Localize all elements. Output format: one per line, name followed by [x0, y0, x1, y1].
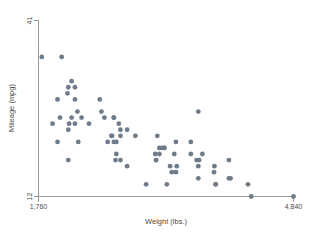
data-point — [212, 170, 217, 175]
data-point — [69, 79, 74, 84]
x-axis-title: Weight (lbs.) — [145, 217, 187, 226]
y-axis-title: Mileage (mpg) — [7, 84, 16, 132]
data-point — [87, 121, 92, 126]
data-point — [168, 164, 173, 169]
data-point — [154, 158, 159, 163]
data-point — [164, 182, 169, 187]
data-point — [118, 127, 123, 132]
data-point — [125, 127, 130, 132]
data-point — [66, 158, 71, 163]
data-point — [97, 97, 102, 102]
data-point — [144, 182, 149, 187]
data-point — [174, 170, 179, 175]
data-point — [118, 133, 123, 138]
data-point — [162, 146, 167, 151]
data-point — [66, 85, 71, 90]
data-point — [291, 194, 296, 199]
data-point — [249, 194, 254, 199]
data-point — [73, 97, 78, 102]
data-point — [196, 164, 201, 169]
data-point — [188, 152, 193, 157]
data-point — [174, 164, 179, 169]
x-tick-label-max: 4,840 — [285, 203, 303, 210]
data-point — [227, 158, 232, 163]
data-point — [55, 139, 60, 144]
data-point — [50, 121, 55, 126]
data-point — [174, 139, 179, 144]
data-point — [116, 121, 121, 126]
data-point — [157, 146, 162, 151]
data-point — [102, 115, 107, 120]
data-point — [66, 127, 71, 132]
data-point — [246, 182, 251, 187]
data-point — [172, 152, 177, 157]
data-point — [113, 158, 118, 163]
data-point — [58, 115, 63, 120]
y-tick-label-max: 41 — [26, 17, 33, 25]
data-point — [76, 139, 81, 144]
plot-canvas: 41 12 1,760 4,840 Weight (lbs.) Mileage … — [0, 0, 314, 242]
data-point — [153, 152, 158, 157]
data-point — [155, 133, 160, 138]
data-point — [157, 152, 162, 157]
data-point — [125, 164, 130, 169]
data-point — [59, 55, 64, 60]
data-point — [99, 109, 104, 114]
scatter-chart: 41 12 1,760 4,840 Weight (lbs.) Mileage … — [0, 0, 314, 242]
data-point — [55, 97, 60, 102]
data-point — [65, 91, 70, 96]
data-point — [133, 133, 138, 138]
data-point — [75, 109, 80, 114]
data-point — [213, 182, 218, 187]
data-point — [212, 164, 217, 169]
data-point — [227, 176, 232, 181]
data-point — [73, 85, 78, 90]
data-point — [196, 109, 201, 114]
data-point — [118, 158, 123, 163]
data-point — [169, 170, 174, 175]
data-point — [39, 55, 44, 60]
data-point — [69, 115, 74, 120]
y-tick-label-min: 12 — [26, 193, 33, 201]
data-point — [79, 115, 84, 120]
data-point — [105, 139, 110, 144]
data-point — [114, 152, 119, 157]
data-point — [67, 121, 72, 126]
data-point — [111, 115, 116, 120]
data-point — [73, 121, 78, 126]
data-point — [196, 176, 201, 181]
data-point — [200, 152, 205, 157]
data-point — [188, 139, 193, 144]
x-tick-label-min: 1,760 — [30, 203, 48, 210]
data-point — [111, 139, 116, 144]
data-point — [197, 158, 202, 163]
data-point — [110, 133, 115, 138]
